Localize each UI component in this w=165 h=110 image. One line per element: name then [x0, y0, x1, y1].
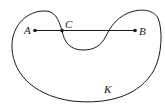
label-region-k: K [103, 83, 112, 95]
point-c-dot [60, 29, 64, 33]
label-a: A [23, 24, 31, 36]
label-c: C [65, 18, 73, 30]
non-convex-region-diagram: A C B K [0, 0, 165, 110]
label-b: B [139, 25, 146, 37]
point-a-dot [33, 29, 37, 33]
point-b-dot [133, 29, 137, 33]
region-boundary-curve [12, 10, 161, 102]
